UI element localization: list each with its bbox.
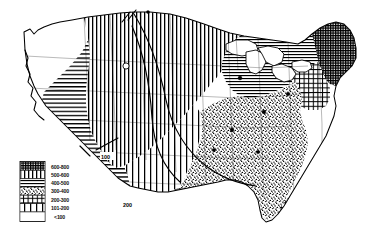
legend-label-6: <100 — [54, 214, 65, 220]
legend-label-0: 600-800 — [51, 164, 69, 170]
isoline-label-100: 100 — [101, 154, 110, 160]
region-midwest-southeast — [180, 82, 308, 220]
legend-label-3: 300-400 — [51, 188, 69, 194]
map-figure: 100 200 600-800 500-600 400-500 — [0, 0, 389, 244]
map-body: 100 200 600-800 500-600 400-500 — [20, 10, 356, 234]
legend-label-4: 200-300 — [51, 197, 69, 203]
legend-label-5: 101-200 — [51, 205, 69, 211]
legend-label-2: 400-500 — [51, 180, 69, 186]
legend-row-6: <100 — [21, 212, 66, 221]
isoline-label-200: 200 — [123, 202, 132, 208]
map-legend: 600-800 500-600 400-500 300-400 200-300 — [20, 162, 69, 222]
us-thematic-map: 100 200 600-800 500-600 400-500 — [0, 0, 389, 244]
legend-label-1: 500-600 — [51, 172, 69, 178]
